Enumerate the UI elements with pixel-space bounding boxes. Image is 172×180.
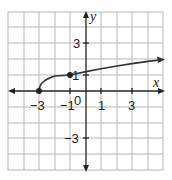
y-tick-neg3: −3 xyxy=(64,131,79,146)
y-axis-down-arrow-icon xyxy=(83,165,89,172)
y-axis-label: y xyxy=(88,9,97,24)
point-neg3-0 xyxy=(36,88,42,94)
x-axis-label: x xyxy=(152,75,160,90)
x-tick-neg3: −3 xyxy=(30,98,45,113)
origin-label: 0 xyxy=(74,93,81,108)
x-axis-left-arrow-icon xyxy=(8,88,15,94)
axes xyxy=(8,11,165,172)
x-tick-neg1: −1 xyxy=(60,98,75,113)
x-tick-3: 3 xyxy=(128,98,135,113)
x-tick-1: 1 xyxy=(98,98,105,113)
y-tick-1: 1 xyxy=(72,68,79,83)
y-tick-3: 3 xyxy=(73,36,80,51)
curve-arrow-icon xyxy=(157,57,165,64)
coordinate-graph: y x −3 −1 0 1 3 3 1 −3 xyxy=(0,0,172,180)
